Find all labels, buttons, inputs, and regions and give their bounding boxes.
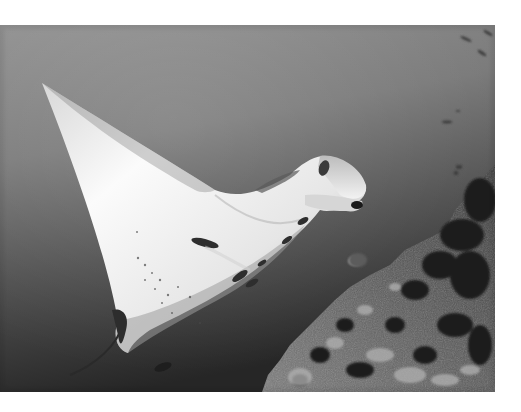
manta-ray-photo: Grayscale underwater photograph of a man…	[0, 25, 495, 392]
photo-canvas	[0, 25, 495, 392]
page: Grayscale underwater photograph of a man…	[0, 0, 521, 412]
